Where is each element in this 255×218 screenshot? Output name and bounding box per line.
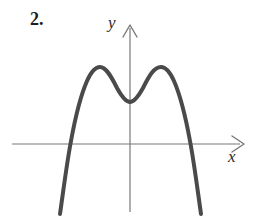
y-axis-label: y: [108, 14, 116, 31]
x-axis-label: x: [228, 148, 236, 165]
figure-container: 2. y x: [0, 0, 255, 218]
graph-plot: [0, 0, 255, 218]
